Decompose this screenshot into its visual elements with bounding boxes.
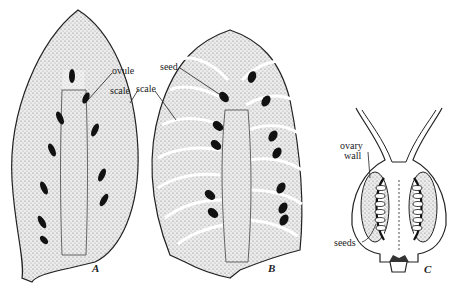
label-scale-a: scale — [110, 86, 130, 96]
label-seed: seed — [160, 62, 178, 72]
figure-label-b: B — [268, 262, 275, 274]
label-wall: wall — [344, 151, 361, 161]
figure-c-ovary — [352, 108, 446, 272]
label-scale-b: scale — [136, 84, 156, 94]
label-seeds: seeds — [334, 238, 356, 248]
botanical-illustration — [0, 0, 462, 291]
label-ovule: ovule — [112, 66, 134, 76]
figure-label-c: C — [424, 263, 431, 275]
figure-a-cone — [12, 10, 138, 282]
figure-label-a: A — [92, 262, 99, 274]
